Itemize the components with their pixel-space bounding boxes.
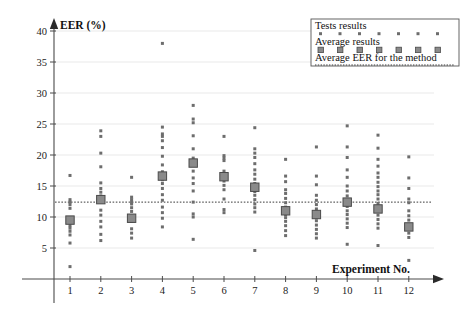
average-result-marker [312,210,320,218]
test-result-point [99,135,102,138]
test-result-point [161,217,164,220]
test-result-point [130,237,133,240]
average-results-markers [66,159,413,231]
average-result-marker [251,183,259,191]
y-tick-label-10: 10 [37,212,48,223]
test-result-point [284,220,287,223]
test-result-point [161,182,164,185]
legend-sample-square [357,47,362,52]
average-result-marker [220,173,228,181]
test-result-point [253,249,256,252]
test-result-point [315,237,318,240]
test-result-point [161,135,164,138]
test-result-point [407,259,410,262]
scatter-chart: 510152025303540 123456789101112 EER (%) … [0,0,467,317]
test-result-point [192,238,195,241]
test-result-point [99,220,102,223]
test-result-point [99,225,102,228]
test-result-point [377,147,380,150]
test-result-point [284,188,287,191]
test-result-point [315,228,318,231]
y-tick-label-5: 5 [42,243,47,254]
y-tick-label-40: 40 [37,26,48,37]
test-result-point [192,170,195,173]
test-result-point [315,203,318,206]
legend-sample-square [416,47,421,52]
test-result-point [284,224,287,227]
legend-sample-dot [319,32,322,35]
test-result-point [253,147,256,150]
test-result-point [161,206,164,209]
test-result-point [192,212,195,215]
test-result-point [99,181,102,184]
y-axis-arrow [50,18,58,29]
test-result-point [315,199,318,202]
average-result-marker [66,216,74,224]
test-result-point [253,162,256,165]
legend-label-average-eer-method: Average EER for the method [315,52,437,63]
legend-sample-square [318,47,323,52]
average-result-marker [405,223,413,231]
test-result-point [192,104,195,107]
test-result-point [315,183,318,186]
test-result-point [99,233,102,236]
test-result-point [315,232,318,235]
x-tick-label-2: 2 [98,285,103,296]
legend-label-average-results: Average results [315,36,380,47]
test-result-point [315,145,318,148]
test-result-point [69,233,72,236]
test-result-point [161,199,164,202]
test-result-point [192,121,195,124]
test-result-point [253,126,256,129]
test-result-point [284,229,287,232]
test-result-point [377,218,380,221]
test-result-point [377,227,380,230]
x-tick-label-7: 7 [252,285,257,296]
test-result-point [99,239,102,242]
test-result-point [192,216,195,219]
test-result-point [192,176,195,179]
test-result-point [130,176,133,179]
test-result-point [407,155,410,158]
test-result-point [161,126,164,129]
test-result-point [346,168,349,171]
test-result-point [407,187,410,190]
test-result-point [253,198,256,201]
test-result-point [253,194,256,197]
test-result-point [130,202,133,205]
x-tick-label-10: 10 [342,285,353,296]
test-result-point [346,222,349,225]
y-tick-label-35: 35 [37,57,48,68]
test-result-point [284,197,287,200]
test-result-point [377,198,380,201]
test-result-point [407,198,410,201]
legend: Tests results Average results Average EE… [311,19,459,66]
test-result-point [99,165,102,168]
test-result-point [161,211,164,214]
test-result-point [99,152,102,155]
test-result-point [223,135,226,138]
legend-sample-dot [417,32,420,35]
test-result-point [284,201,287,204]
test-result-point [69,242,72,245]
test-result-point [161,225,164,228]
x-tick-label-11: 11 [373,285,383,296]
test-result-point [253,202,256,205]
test-result-point [377,189,380,192]
test-result-point [346,156,349,159]
test-result-point [377,222,380,225]
y-tick-label-15: 15 [37,181,48,192]
x-tick-label-9: 9 [314,285,319,296]
average-result-marker [158,172,166,180]
chart-canvas: 510152025303540 123456789101112 EER (%) … [0,0,467,317]
test-result-point [346,124,349,127]
test-result-point [253,178,256,181]
y-axis-ticks: 510152025303540 [37,26,57,254]
legend-sample-dot [339,32,342,35]
test-result-point [69,227,72,230]
test-result-point [69,265,72,268]
y-axis-title: EER (%) [60,19,106,32]
test-result-point [161,139,164,142]
test-result-point [346,226,349,229]
test-result-point [284,216,287,219]
